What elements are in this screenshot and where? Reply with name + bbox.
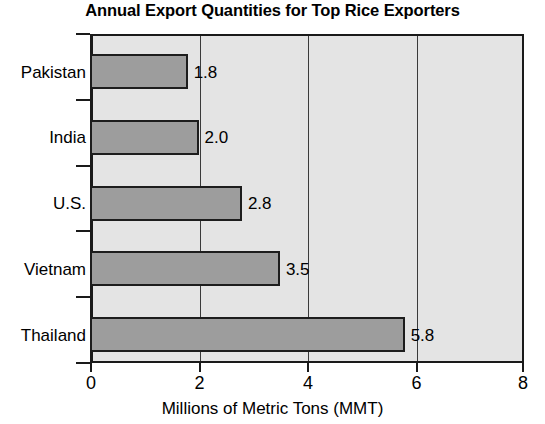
bar-value-thailand: 5.8: [405, 326, 435, 343]
bar-vietnam[interactable]: [90, 251, 280, 286]
category-label-us: U.S.: [53, 195, 86, 212]
category-label-india: India: [49, 129, 86, 146]
x-axis-tick: [522, 363, 524, 372]
y-axis-tick: [76, 165, 90, 167]
bar-thailand[interactable]: [90, 317, 405, 352]
x-axis-tick: [307, 363, 309, 372]
x-axis-tick-label-6: 6: [397, 374, 437, 392]
x-axis-tick-label-0: 0: [71, 374, 111, 392]
y-axis-tick: [76, 296, 90, 298]
bar-row: 3.5: [90, 251, 524, 286]
bar-pakistan[interactable]: [90, 54, 188, 89]
bar-row: 1.8: [90, 54, 524, 89]
bar-us[interactable]: [90, 186, 242, 221]
bar-value-pakistan: 1.8: [188, 63, 218, 80]
bar-value-us: 2.8: [242, 195, 272, 212]
x-axis-tick-label-8: 8: [503, 374, 543, 392]
bar-value-india: 2.0: [199, 129, 229, 146]
x-axis-tick-label-4: 4: [288, 374, 328, 392]
bars-layer: 1.8 2.0 2.8 3.5 5.8: [90, 34, 524, 363]
bar-row: 5.8: [90, 317, 524, 352]
bar-row: 2.0: [90, 120, 524, 155]
y-axis-tick: [76, 99, 90, 101]
x-axis-tick: [90, 363, 92, 372]
bar-chart-figure: Annual Export Quantities for Top Rice Ex…: [0, 0, 545, 424]
category-label-thailand: Thailand: [21, 326, 86, 343]
category-label-pakistan: Pakistan: [21, 63, 86, 80]
chart-title: Annual Export Quantities for Top Rice Ex…: [0, 1, 545, 20]
y-axis-tick: [76, 230, 90, 232]
bar-row: 2.8: [90, 186, 524, 221]
x-axis-tick-label-2: 2: [180, 374, 220, 392]
y-axis-tick: [76, 362, 90, 364]
bar-india[interactable]: [90, 120, 199, 155]
x-axis-tick: [199, 363, 201, 372]
y-axis-tick: [76, 33, 90, 35]
x-axis-title: Millions of Metric Tons (MMT): [0, 399, 545, 419]
bar-value-vietnam: 3.5: [280, 260, 310, 277]
x-axis-tick: [416, 363, 418, 372]
category-label-vietnam: Vietnam: [24, 260, 86, 277]
